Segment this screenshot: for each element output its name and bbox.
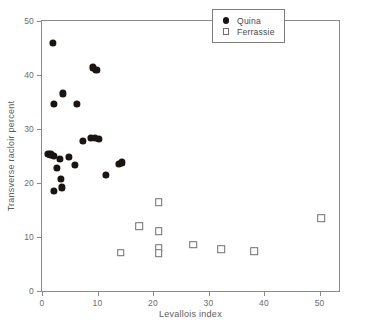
x-axis-tick [209,291,210,296]
data-point-quina [93,66,100,73]
y-axis-tick-label: 0 [29,286,34,296]
x-axis-tick-label: 50 [315,298,325,308]
x-axis-title: Levallois index [41,309,340,319]
data-point-quina [95,136,102,143]
chart-legend: Quina Ferrassie [212,9,285,43]
data-point-quina [50,39,57,46]
y-axis-tick [37,237,42,238]
y-axis-tick-label: 30 [24,124,34,134]
data-point-quina [60,90,67,97]
scatter-plot-figure: Transverse racloir percent 0102030405001… [0,0,366,329]
x-axis-tick-label: 20 [148,298,158,308]
filled-circle-icon [220,17,232,23]
data-point-quina [51,188,58,195]
x-axis-tick-label: 40 [259,298,269,308]
y-axis-tick [37,21,42,22]
legend-item-quina: Quina [220,15,275,26]
legend-label-ferrassie: Ferrassie [237,27,275,37]
x-axis-tick [320,291,321,296]
data-point-quina [71,161,78,168]
data-point-ferrassie [218,246,226,254]
y-axis-tick [37,75,42,76]
data-point-ferrassie [155,199,163,207]
y-axis-tick-label: 10 [24,232,34,242]
data-point-quina [51,100,58,107]
x-axis-tick [264,291,265,296]
data-point-quina [57,175,64,182]
data-point-ferrassie [135,222,143,230]
y-axis-tick-label: 20 [24,178,34,188]
x-axis-tick [98,291,99,296]
x-axis-tick-label: 30 [204,298,214,308]
data-point-ferrassie [189,241,197,249]
y-axis-tick-label: 40 [24,70,34,80]
data-point-quina [56,155,63,162]
data-point-quina [102,171,109,178]
y-axis-title: Transverse racloir percent [4,20,18,292]
y-axis-tick [37,183,42,184]
data-point-quina [79,137,86,144]
data-point-ferrassie [155,249,163,257]
data-points-layer [42,21,339,291]
data-point-quina [58,184,65,191]
data-point-ferrassie [317,214,325,222]
legend-label-quina: Quina [237,16,261,26]
y-axis-tick-label: 50 [24,16,34,26]
y-axis-tick [37,129,42,130]
plot-area: 0102030405001020304050 [41,20,340,292]
data-point-quina [118,159,125,166]
x-axis-tick-label: 0 [40,298,45,308]
x-axis-tick [153,291,154,296]
data-point-quina [53,164,60,171]
y-axis-title-text: Transverse racloir percent [6,101,16,212]
open-square-icon [220,28,232,35]
data-point-quina [65,153,72,160]
x-axis-tick-label: 10 [93,298,103,308]
x-axis-tick [42,291,43,296]
data-point-ferrassie [117,249,125,257]
data-point-ferrassie [250,247,258,255]
data-point-ferrassie [155,227,163,235]
data-point-quina [73,101,80,108]
legend-item-ferrassie: Ferrassie [220,26,275,37]
